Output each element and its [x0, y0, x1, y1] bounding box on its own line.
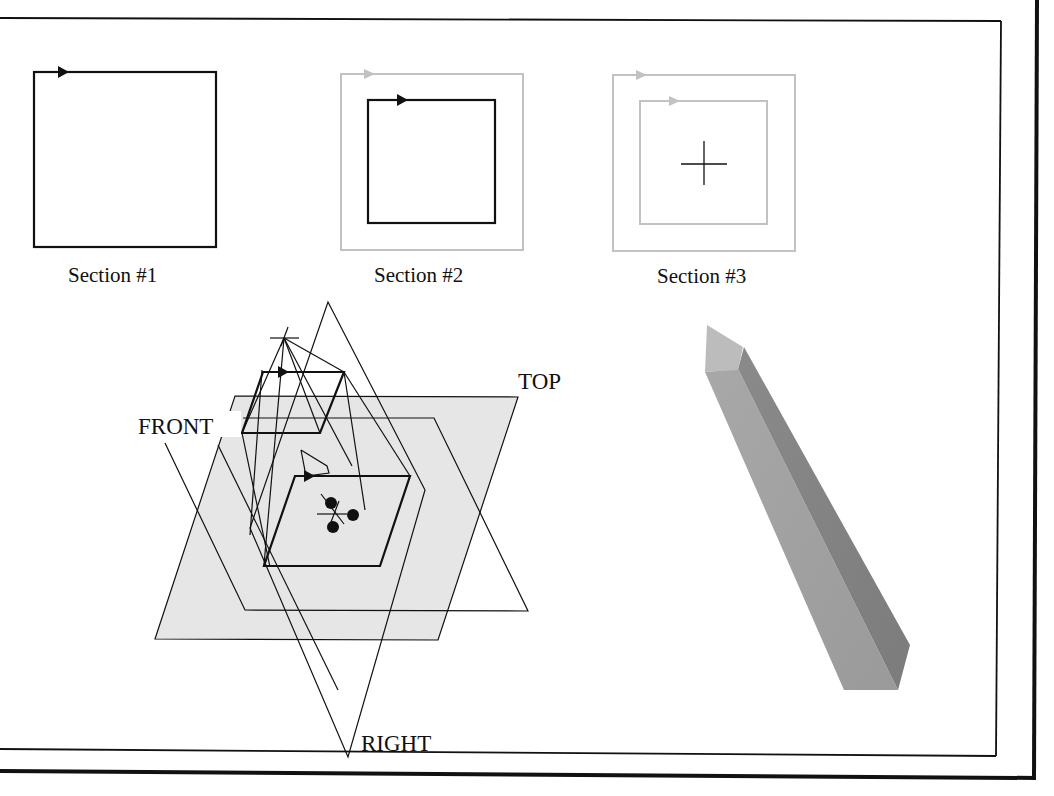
section-1-square	[34, 72, 216, 247]
section-1-label: Section #1	[68, 263, 157, 287]
start-point-arrow-icon	[278, 366, 289, 378]
start-point-arrow-icon	[397, 94, 408, 106]
solid-preview[interactable]	[705, 325, 910, 690]
datum-planes-view[interactable]: FRONT TOP RIGHT	[137, 302, 561, 757]
front-plane-label: FRONT	[138, 414, 213, 439]
section-2-label: Section #2	[374, 263, 463, 287]
section-3-sketch[interactable]: Section #3	[613, 70, 795, 288]
start-point-arrow-icon	[58, 66, 69, 78]
solid-top-face	[705, 325, 743, 372]
right-plane-label: RIGHT	[361, 731, 431, 756]
inner-frame-top	[0, 18, 1001, 21]
start-point-arrow-icon	[636, 70, 647, 80]
section-3-label: Section #3	[657, 264, 746, 288]
inner-frame-right	[996, 21, 1001, 756]
inner-frame-bottom	[0, 749, 996, 756]
section-2-sketch[interactable]: Section #2	[341, 69, 523, 287]
start-point-arrow-icon	[364, 69, 375, 79]
diagram-canvas: Section #1 Section #2 Section #3	[0, 0, 1054, 796]
section-1-sketch[interactable]: Section #1	[34, 66, 216, 287]
outer-frame-bottom	[0, 771, 1036, 778]
outer-frame-right	[1034, 0, 1037, 778]
section-2-inner-square	[368, 100, 495, 223]
solid-left-face	[705, 369, 898, 690]
coordinate-system-cross-icon	[681, 141, 727, 185]
start-point-arrow-icon	[669, 96, 680, 106]
coordinate-system-cross-icon	[270, 327, 299, 346]
top-plane-label: TOP	[518, 369, 561, 394]
